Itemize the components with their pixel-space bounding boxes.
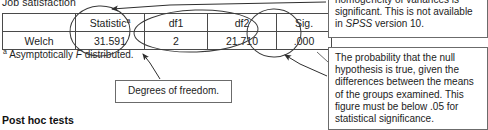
header-df1: df1 (145, 14, 208, 32)
table-footnote: a Asymptotically F distributed. (3, 49, 134, 61)
robust-tests-table: Statistica df1 df2 Sig. Welch 31.591 2 2… (2, 13, 332, 50)
cell-df2: 21.710 (208, 32, 277, 50)
callout-spss-italic: SPSS (346, 18, 373, 29)
callout-line-2: significant. This is not available (335, 6, 482, 18)
callout-df-label: Degrees of freedom. (128, 85, 219, 97)
footnote-text-after: distributed. (82, 49, 134, 60)
callout-line-3-after: version 10. (372, 18, 424, 29)
arrow-to-statistic (112, 2, 326, 9)
table-row: Welch 31.591 2 21.710 .000 (3, 32, 332, 50)
table-caption: Job satisfaction (2, 0, 76, 8)
callout-significance-note: The probability that the null hypothesis… (328, 47, 488, 130)
arrow-to-sig (285, 55, 327, 76)
callout-homogeneity-note: homogeneity of variances is significant.… (328, 0, 488, 38)
footnote-text-before: Asymptotically (7, 49, 76, 60)
section-heading-post-hoc-tests: Post hoc tests (2, 114, 74, 126)
callout-degrees-of-freedom: Degrees of freedom. (115, 80, 232, 103)
header-df2: df2 (208, 14, 277, 32)
header-statistic-superscript: a (126, 16, 130, 23)
callout-line-3: in SPSS version 10. (335, 18, 482, 30)
header-sig: Sig. (277, 14, 332, 32)
header-blank (3, 14, 76, 32)
cell-df1: 2 (145, 32, 208, 50)
header-statistic-label: Statistic (90, 17, 127, 29)
header-statistic: Statistica (76, 14, 145, 32)
callout-line-3-before: in (335, 18, 346, 29)
arrow-to-df (143, 54, 160, 79)
table-header-row: Statistica df1 df2 Sig. (3, 14, 332, 32)
cell-sig: .000 (277, 32, 332, 50)
row-label-welch: Welch (3, 32, 76, 50)
connector-stub-bottom-right (317, 52, 328, 62)
cell-statistic: 31.591 (76, 32, 145, 50)
